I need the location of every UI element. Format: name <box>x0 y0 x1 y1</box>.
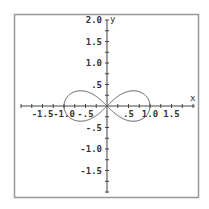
x-axis-label: x <box>190 93 196 103</box>
x-tick-label: .5 <box>123 109 134 119</box>
y-tick-label: 1.5 <box>86 37 102 47</box>
y-tick-label: -.5 <box>86 123 102 133</box>
y-tick-label: .5 <box>91 80 102 90</box>
y-tick-label: 1.0 <box>86 58 102 68</box>
lemniscate-plot: -1.5-1.0-.5.51.01.5 2.01.51.0.5-.5-1.0-1… <box>0 0 209 209</box>
x-tick-label: 1.5 <box>163 109 179 119</box>
x-tick-label: -.5 <box>77 109 93 119</box>
y-axis-label: y <box>110 14 116 24</box>
x-tick-label: -1.0 <box>53 109 75 119</box>
y-tick-label: -1.0 <box>80 144 102 154</box>
x-tick-label: -1.5 <box>32 109 54 119</box>
y-tick-label: -1.5 <box>80 166 102 176</box>
y-tick-label: 2.0 <box>86 15 102 25</box>
